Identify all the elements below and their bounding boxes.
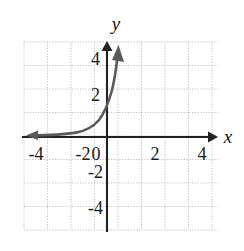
- x-tick-label-0: 0: [92, 144, 101, 164]
- x-axis-title: x: [223, 126, 233, 147]
- x-tick-label-2: 2: [151, 144, 160, 164]
- y-tick-label--4: -4: [88, 198, 103, 218]
- graph-figure: -4 -2 0 2 4 4 2 -2 -4 x y: [0, 0, 244, 251]
- x-tick-label-4: 4: [198, 144, 207, 164]
- y-tick-label-4: 4: [91, 49, 100, 69]
- figure-background: [0, 0, 244, 251]
- y-tick-label-2: 2: [91, 85, 100, 105]
- y-tick-label--2: -2: [88, 162, 103, 182]
- x-tick-label--2: -2: [76, 144, 91, 164]
- x-tick-label--4: -4: [29, 144, 44, 164]
- coordinate-plane: -4 -2 0 2 4 4 2 -2 -4 x y: [0, 0, 244, 251]
- y-axis-title: y: [110, 13, 121, 34]
